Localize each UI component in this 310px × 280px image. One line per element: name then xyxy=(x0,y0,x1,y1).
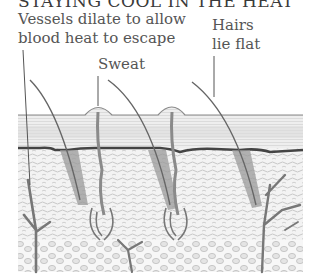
fat-layer xyxy=(18,240,303,272)
skin-cross-section-illustration xyxy=(0,0,310,280)
